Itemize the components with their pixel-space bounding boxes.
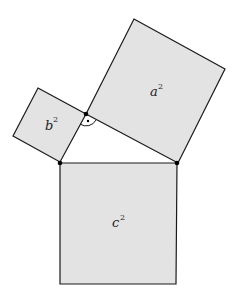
label-c-exp: 2	[120, 213, 125, 222]
vertex-right	[175, 161, 180, 166]
right-angle-dot	[87, 120, 89, 122]
label-a: a	[150, 84, 158, 99]
label-b-exp: 2	[53, 115, 58, 124]
pythagoras-diagram: a 2 b 2 c 2	[0, 0, 237, 295]
label-c: c	[112, 215, 120, 230]
label-a-exp: 2	[158, 82, 163, 91]
vertex-right-angle	[84, 112, 89, 117]
vertex-left	[58, 161, 63, 166]
